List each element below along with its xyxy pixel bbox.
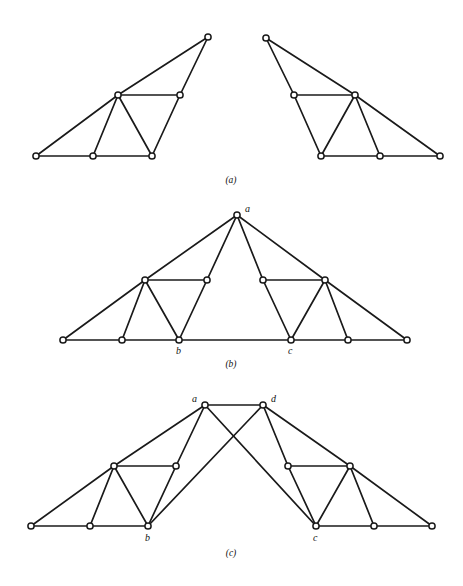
edge-R2-R3 — [321, 95, 355, 156]
node-P4[interactable] — [173, 463, 179, 469]
edge-R2-R4 — [294, 95, 321, 156]
subgraph-a-left — [33, 34, 211, 159]
node-Q2[interactable] — [313, 523, 319, 529]
edge-P2-P3 — [114, 466, 148, 526]
node-P1[interactable] — [87, 523, 93, 529]
node-R1[interactable] — [377, 153, 383, 159]
node-Q1[interactable] — [371, 523, 377, 529]
nodes-c-graph: bacd — [28, 393, 435, 543]
edge-B2-B4 — [179, 280, 207, 340]
node-L5[interactable] — [205, 34, 211, 40]
panel-b: bac(b) — [60, 203, 410, 370]
node-Q0[interactable] — [429, 523, 435, 529]
edge-B3-A — [145, 215, 237, 280]
subgraph-c-graph: bacd — [28, 393, 435, 543]
node-Q4[interactable] — [285, 463, 291, 469]
node-R0[interactable] — [437, 153, 443, 159]
edge-P2-P4 — [148, 466, 176, 526]
node-L2[interactable] — [149, 153, 155, 159]
node-L3[interactable] — [115, 92, 121, 98]
panel-caption-a: (a) — [225, 175, 236, 186]
node-R2[interactable] — [318, 153, 324, 159]
node-L4[interactable] — [177, 92, 183, 98]
vertex-label-d: d — [271, 393, 277, 404]
node-P2[interactable] — [145, 523, 151, 529]
edge-Q2-Q3 — [316, 466, 350, 526]
node-P3[interactable] — [111, 463, 117, 469]
panel-caption-c: (c) — [226, 548, 237, 559]
panel-caption-b: (b) — [225, 359, 236, 370]
node-R3[interactable] — [352, 92, 358, 98]
vertex-label-c: c — [313, 532, 318, 543]
node-B2[interactable] — [176, 337, 182, 343]
edges-b-graph — [63, 215, 407, 340]
node-R5[interactable] — [263, 35, 269, 41]
edge-L2-L3 — [118, 95, 152, 156]
node-A[interactable] — [234, 212, 240, 218]
node-C4[interactable] — [260, 277, 266, 283]
node-C3[interactable] — [322, 277, 328, 283]
subgraph-a-right — [263, 35, 443, 159]
edge-C2-C3 — [291, 280, 325, 340]
vertex-label-a: a — [245, 203, 250, 214]
node-C0[interactable] — [404, 337, 410, 343]
node-QD[interactable] — [260, 402, 266, 408]
subgraph-b-graph: bac — [60, 203, 410, 356]
node-B0[interactable] — [60, 337, 66, 343]
node-L0[interactable] — [33, 153, 39, 159]
figure-container: (a)bac(b)bacd(c) — [0, 0, 463, 586]
edge-L2-L4 — [152, 95, 180, 156]
node-C1[interactable] — [345, 337, 351, 343]
node-B1[interactable] — [119, 337, 125, 343]
panel-a: (a) — [33, 34, 443, 186]
node-B4[interactable] — [204, 277, 210, 283]
edge-C2-C4 — [263, 280, 291, 340]
node-B3[interactable] — [142, 277, 148, 283]
edges-c-graph — [31, 405, 432, 526]
node-Q3[interactable] — [347, 463, 353, 469]
nodes-b-graph: bac — [60, 203, 410, 356]
node-R4[interactable] — [291, 92, 297, 98]
edge-Q2-Q4 — [288, 466, 316, 526]
vertex-label-b: b — [145, 532, 150, 543]
edge-B2-B3 — [145, 280, 179, 340]
node-PA[interactable] — [202, 402, 208, 408]
graph-figure-canvas: (a)bac(b)bacd(c) — [0, 0, 463, 586]
vertex-label-c: c — [288, 345, 293, 356]
vertex-label-b: b — [176, 345, 181, 356]
node-L1[interactable] — [90, 153, 96, 159]
node-C2[interactable] — [288, 337, 294, 343]
vertex-label-a: a — [192, 393, 197, 404]
panels-layer: (a)bac(b)bacd(c) — [28, 34, 443, 559]
node-P0[interactable] — [28, 523, 34, 529]
panel-c: bacd(c) — [28, 393, 435, 559]
